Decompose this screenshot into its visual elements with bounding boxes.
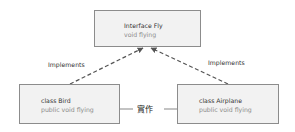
- implementation-label-center: 實作: [137, 103, 153, 114]
- interface-fly-title: Interface Fly: [124, 22, 163, 29]
- class-airplane-method: public void flying: [199, 106, 252, 113]
- airplane-implements-fly-line: [151, 48, 228, 84]
- class-airplane-title: class Airplane: [199, 97, 242, 104]
- class-bird-box: class Bird public void flying: [19, 84, 120, 124]
- interface-fly-method: void flying: [124, 31, 156, 38]
- interface-fly-box: Interface Fly void flying: [94, 10, 201, 47]
- implements-label-right: Implements: [208, 59, 245, 66]
- class-bird-title: class Bird: [41, 97, 71, 104]
- class-airplane-box: class Airplane public void flying: [177, 84, 279, 124]
- implements-label-left: Implements: [48, 61, 85, 68]
- class-bird-method: public void flying: [41, 106, 94, 113]
